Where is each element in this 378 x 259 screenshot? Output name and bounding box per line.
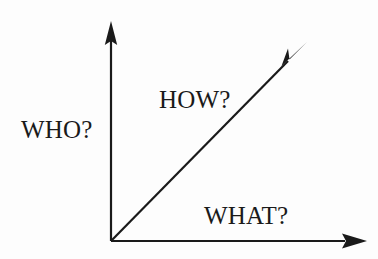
diagram-canvas: WHO? HOW? WHAT? [0, 0, 378, 259]
horizontal-axis-label-what: WHAT? [204, 203, 288, 228]
horizontal-axis-arrowhead [342, 234, 367, 249]
horizontal-axis-arrow [111, 234, 367, 249]
vertical-axis-label-who: WHO? [21, 117, 93, 142]
diagonal-axis-label-how: HOW? [159, 87, 231, 112]
vertical-axis-arrow [105, 21, 117, 241]
